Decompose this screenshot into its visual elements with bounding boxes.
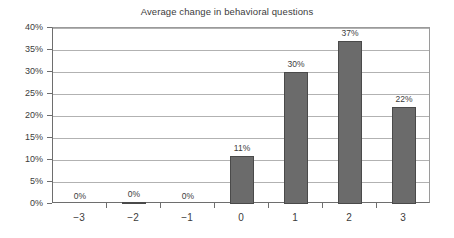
bar-value-label: 22% [395,94,412,104]
x-tick-mark [268,203,269,208]
bar-value-label: 0% [74,191,86,201]
y-tick-label: 0% [30,198,43,208]
bar-value-label: 37% [341,28,358,38]
bar [338,41,362,204]
chart-title: Average change in behavioral questions [0,6,454,17]
y-tick-label: 10% [25,154,43,164]
gridline [53,50,429,51]
y-tick-label: 25% [25,88,43,98]
plot-area: 0%0%0%11%30%37%22% [52,27,430,203]
bar [230,156,254,204]
gridline [53,94,429,95]
gridline [53,138,429,139]
y-tick-label: 5% [30,176,43,186]
x-tick-label: 2 [322,212,376,223]
bar-value-label: 11% [234,143,250,153]
y-tick-label: 30% [25,66,43,76]
bar [284,72,308,204]
bar-value-label: 0% [182,191,194,201]
y-tick-label: 40% [25,22,43,32]
y-axis: 40%35%30%25%20%15%10%5%0% [0,0,52,238]
x-tick-mark [322,203,323,208]
x-tick-mark [376,203,377,208]
y-tick-label: 35% [25,44,43,54]
y-tick-label: 15% [25,132,43,142]
x-tick-label: −2 [106,212,160,223]
gridline [53,28,429,29]
gridline [53,116,429,117]
x-tick-label: −1 [160,212,214,223]
bar-value-label: 30% [287,59,304,69]
x-axis: −3−2−10123 [52,203,430,238]
x-tick-label: 3 [376,212,430,223]
gridline [53,72,429,73]
x-tick-mark [214,203,215,208]
x-tick-label: −3 [52,212,106,223]
x-tick-label: 1 [268,212,322,223]
x-tick-label: 0 [214,212,268,223]
x-tick-mark [160,203,161,208]
y-tick-label: 20% [25,110,43,120]
bar-chart-figure: Average change in behavioral questions 4… [0,0,454,238]
bar-value-label: 0% [128,189,140,199]
x-tick-mark [106,203,107,208]
bar [392,107,416,204]
